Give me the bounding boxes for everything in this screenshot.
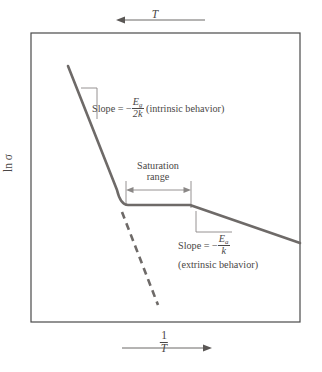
top-axis-arrow [116,16,205,23]
bottom-axis-denominator: T [160,343,168,355]
extrinsic-denominator: k [218,246,230,256]
intrinsic-slope-prefix: Slope = − [92,103,132,114]
extrinsic-slope-suffix: (extrinsic behavior) [178,259,258,270]
bottom-axis-label: 1 T [160,330,168,354]
y-axis-label: ln σ [2,154,15,172]
saturation-range-line1: Saturation [137,160,179,171]
intrinsic-denominator: 2k [132,109,144,119]
saturation-range-line2: range [137,171,179,182]
saturation-range-label: Saturation range [137,160,179,183]
intrinsic-slope-suffix: (intrinsic behavior) [146,103,224,114]
intrinsic-slope-annotation: Slope = − Eg 2k (intrinsic behavior) [92,97,224,119]
semiconductor-conductivity-figure: T 1 T ln σ Slope = − Eg 2k (intrinsic be… [0,0,322,372]
bottom-axis-numerator: 1 [160,330,168,343]
intrinsic-extrapolation-line [122,212,158,305]
extrinsic-slope-annotation: Slope = − Ea k (extrinsic behavior) [178,234,258,271]
conductivity-curve [68,66,300,243]
extrinsic-slope-prefix: Slope = − [178,240,218,251]
top-axis-label: T [152,8,158,21]
figure-canvas [0,0,322,372]
